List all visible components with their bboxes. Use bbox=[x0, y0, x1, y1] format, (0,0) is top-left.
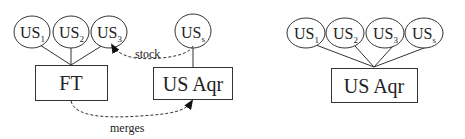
svg-text:US Aqr: US Aqr bbox=[163, 73, 224, 96]
stock-label: stock bbox=[135, 47, 160, 61]
merges-arrow bbox=[71, 101, 192, 117]
merges-label: merges bbox=[110, 121, 145, 135]
diagram-canvas: US1 US2 US3 USs FT US Aqr stock merges bbox=[0, 0, 465, 139]
svg-text:FT: FT bbox=[59, 72, 82, 94]
box-us-aqr-right: US Aqr bbox=[332, 69, 418, 103]
svg-text:US Aqr: US Aqr bbox=[344, 75, 405, 98]
node-r-uss: USs bbox=[405, 18, 443, 48]
node-r-us3: US3 bbox=[366, 18, 404, 48]
node-us2: US2 bbox=[53, 16, 89, 48]
box-us-aqr-left: US Aqr bbox=[154, 68, 233, 100]
connector-us3-ft bbox=[71, 45, 103, 65]
right-diagram: US1 US2 US3 USs US Aqr bbox=[287, 18, 443, 103]
left-diagram: US1 US2 US3 USs FT US Aqr stock merges bbox=[14, 14, 233, 135]
node-uss: USs bbox=[175, 14, 211, 48]
node-r-us2: US2 bbox=[326, 18, 364, 48]
node-us1: US1 bbox=[14, 16, 50, 48]
node-r-us1: US1 bbox=[287, 18, 325, 48]
node-us3: US3 bbox=[91, 16, 127, 48]
box-ft: FT bbox=[36, 66, 108, 101]
